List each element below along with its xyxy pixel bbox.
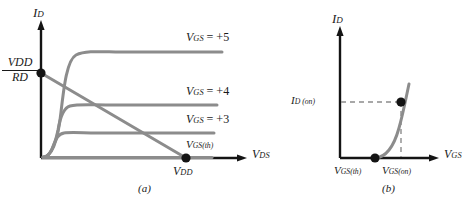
- caption-b: (b): [382, 182, 395, 194]
- panel-a-y-axis-arrow: [37, 20, 44, 30]
- curve-label-vgs-5: VGS = +5: [186, 31, 229, 43]
- id-on-label: ID (on): [291, 95, 315, 106]
- vgs-on-label: VGS(on): [382, 165, 411, 176]
- curve-label-vgs-4: VGS = +4: [186, 85, 229, 97]
- vgs-threshold-dot: [370, 153, 379, 162]
- transconductance-curve: [375, 84, 409, 158]
- rd-denominator: RD: [12, 70, 28, 84]
- panel-b-x-axis-label: VGS: [444, 148, 462, 160]
- panel-b-axes: [336, 26, 439, 162]
- panel-a-x-axis-arrow: [237, 154, 247, 161]
- vdd-x-intercept-label: VDD: [173, 165, 192, 177]
- curve-label-vgs-3: VGS = +3: [186, 113, 229, 125]
- panel-a-x-axis-label: VDS: [252, 148, 270, 160]
- mosfet-characteristics-figure: ID VDD RD VGS = +5 VGS = +4 VGS = +3 VGS…: [0, 0, 470, 202]
- curve-label-vgs-th: VGS(th): [186, 139, 213, 150]
- vdd-numerator: VDD: [8, 55, 33, 69]
- id-on-operating-dot: [396, 97, 405, 106]
- panel-b-graph: [336, 26, 439, 163]
- caption-a: (a): [138, 182, 151, 194]
- vgs-threshold-label: VGS(th): [334, 165, 361, 176]
- load-line-x-intercept-dot: [181, 153, 190, 162]
- panel-b-y-axis-label: ID: [332, 12, 343, 25]
- panel-b-y-axis-arrow: [336, 26, 343, 36]
- panel-a-y-axis-label: ID: [33, 6, 44, 19]
- load-line-y-intercept-label: VDD RD: [2, 56, 38, 83]
- panel-b-x-axis-arrow: [429, 154, 439, 161]
